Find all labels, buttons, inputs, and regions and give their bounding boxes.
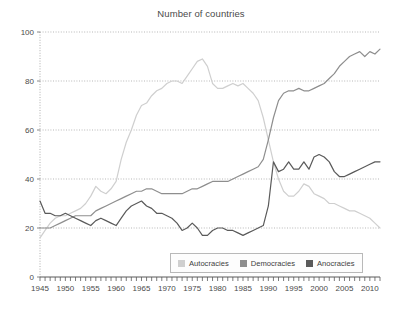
legend-item-anocracies[interactable]: Anocracies <box>306 259 355 268</box>
legend-item-autocracies[interactable]: Autocracies <box>178 259 229 268</box>
legend-swatch-icon <box>178 260 185 267</box>
series-line-autocracies <box>40 59 380 238</box>
x-tick-label: 1945 <box>31 284 49 293</box>
x-tick-label: 1990 <box>259 284 277 293</box>
y-tick-label: 20 <box>25 224 34 233</box>
y-tick-label: 60 <box>25 126 34 135</box>
x-tick-label: 1975 <box>183 284 201 293</box>
x-tick-label: 1980 <box>209 284 227 293</box>
x-tick-label: 1985 <box>234 284 252 293</box>
chart-legend: AutocraciesDemocraciesAnocracies <box>170 253 363 273</box>
y-tick-label: 80 <box>25 77 34 86</box>
x-tick-label: 1950 <box>56 284 74 293</box>
x-tick-label: 1965 <box>133 284 151 293</box>
x-tick-label: 1955 <box>82 284 100 293</box>
x-tick-label: 2000 <box>310 284 328 293</box>
data-series-group <box>40 49 380 238</box>
x-tick-label: 2010 <box>361 284 379 293</box>
x-axis: 1945195019551960196519701975198019851990… <box>31 277 380 293</box>
legend-label: Anocracies <box>317 259 355 268</box>
legend-item-democracies[interactable]: Democracies <box>240 259 295 268</box>
y-tick-label: 40 <box>25 175 34 184</box>
legend-label: Autocracies <box>189 259 229 268</box>
legend-swatch-icon <box>306 260 313 267</box>
gridlines-group <box>40 32 380 228</box>
y-axis: 020406080100 <box>21 28 40 282</box>
x-tick-label: 2005 <box>336 284 354 293</box>
x-tick-label: 1995 <box>285 284 303 293</box>
chart-container: Number of countries 020406080100 1945195… <box>0 0 402 314</box>
y-tick-label: 0 <box>30 273 35 282</box>
x-tick-label: 1960 <box>107 284 125 293</box>
x-tick-label: 1970 <box>158 284 176 293</box>
y-tick-label: 100 <box>21 28 35 37</box>
legend-swatch-icon <box>240 260 247 267</box>
legend-label: Democracies <box>251 259 295 268</box>
